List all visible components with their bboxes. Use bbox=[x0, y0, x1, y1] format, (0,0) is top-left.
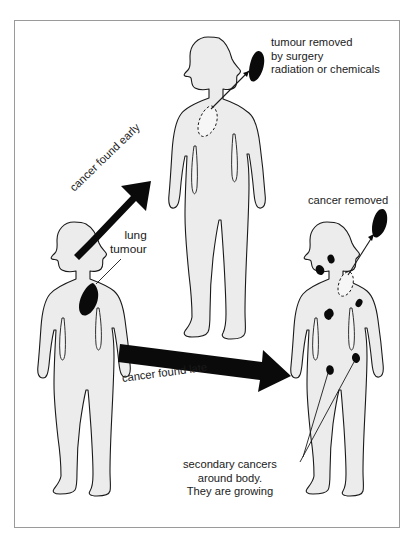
figure-patient-late-treated bbox=[291, 209, 388, 496]
tumour-extracted-early bbox=[249, 51, 264, 82]
label-tumour-removed: tumour removed by surgery radiation or c… bbox=[271, 36, 380, 77]
diagram-canvas: tumour removed by surgery radiation or c… bbox=[0, 0, 418, 548]
label-lung-tumour: lung tumour bbox=[110, 228, 147, 257]
label-cancer-removed: cancer removed bbox=[308, 194, 388, 208]
label-secondary-cancers: secondary cancers around body. They are … bbox=[183, 458, 277, 499]
figure-patient-early-treated bbox=[169, 37, 266, 339]
tumour-extracted-late bbox=[372, 209, 387, 238]
figure-patient-initial bbox=[38, 222, 131, 496]
